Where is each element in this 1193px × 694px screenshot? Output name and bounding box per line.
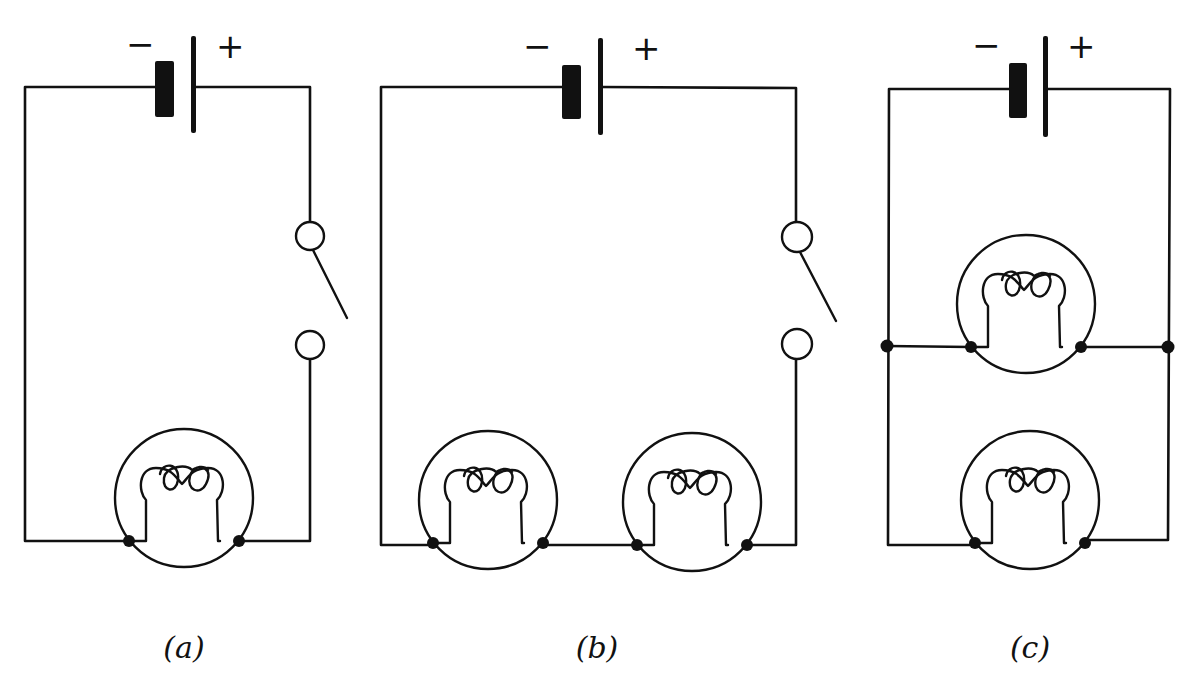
positive-terminal-label: + xyxy=(216,26,245,66)
negative-terminal-label: − xyxy=(523,26,552,66)
light-bulb-1-icon xyxy=(419,431,557,569)
light-bulb-lower-icon xyxy=(961,431,1099,569)
wire-right-c xyxy=(1046,89,1170,540)
negative-terminal-label: − xyxy=(126,24,155,64)
positive-terminal-label: + xyxy=(632,28,661,68)
battery-icon: − + xyxy=(126,24,245,133)
negative-terminal-label: − xyxy=(972,25,1001,65)
circuit-c: − + xyxy=(881,25,1175,569)
circuit-b: − + xyxy=(381,26,836,571)
caption-c: (c) xyxy=(1010,630,1050,665)
junction-right xyxy=(1162,341,1175,354)
wire-bottom-right-b xyxy=(747,358,796,545)
light-bulb-upper-icon xyxy=(957,235,1095,373)
battery-icon: − + xyxy=(523,26,661,135)
battery-icon: − + xyxy=(972,25,1096,137)
wire-left-b xyxy=(381,87,562,545)
positive-terminal-label: + xyxy=(1067,26,1096,66)
wire-bottom-right-a xyxy=(239,356,310,541)
caption-a: (a) xyxy=(163,630,204,665)
junction-left xyxy=(881,340,894,353)
wire-left-a xyxy=(25,87,155,541)
circuit-diagrams: − + − + xyxy=(0,0,1193,694)
wire-top-right-b xyxy=(601,87,796,222)
light-bulb-2-icon xyxy=(623,433,761,571)
circuit-a: − + xyxy=(25,24,347,567)
wire-top-right-a xyxy=(194,87,310,222)
wire-upper-left-branch-c xyxy=(887,346,970,347)
light-bulb-icon xyxy=(115,429,253,567)
switch-icon xyxy=(296,222,347,359)
caption-b: (b) xyxy=(576,630,619,665)
switch-icon xyxy=(782,222,836,359)
